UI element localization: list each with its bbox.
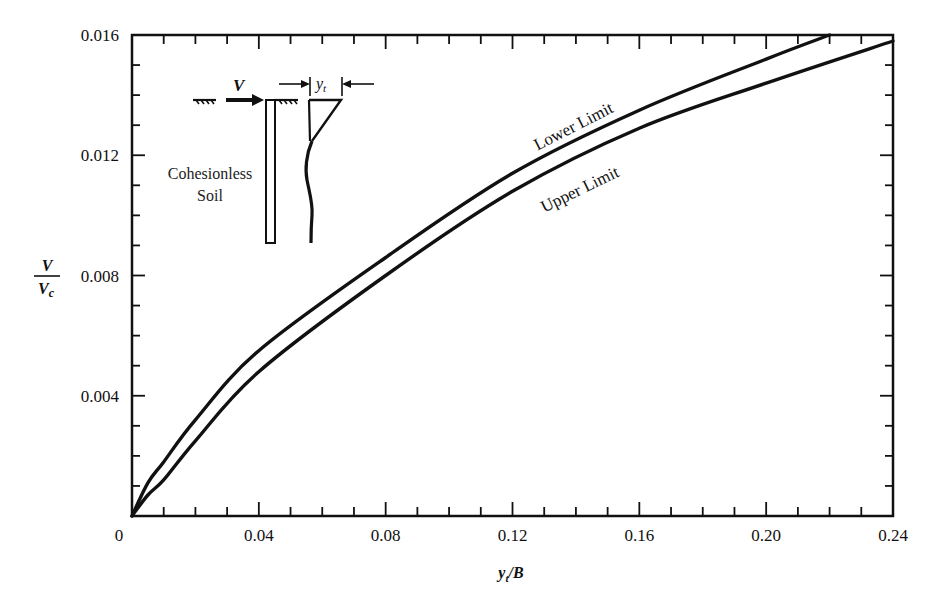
- x-tick-labels: 00.040.080.120.160.200.24: [115, 526, 909, 545]
- x-tick-label: 0.08: [371, 526, 401, 545]
- ground-hatch-left: [193, 100, 216, 104]
- load-arrow: [226, 94, 264, 106]
- y-tick-label: 0.016: [81, 26, 119, 45]
- chart: 00.040.080.120.160.200.24 0.0040.0080.01…: [0, 0, 937, 599]
- soil-label-line2: Soil: [197, 187, 223, 204]
- y-axis-title-numerator: V: [42, 257, 54, 274]
- y-axis-title: V Vc: [34, 257, 60, 300]
- deflection-label: yt: [314, 75, 327, 94]
- y-axis-title-den-sub: c: [49, 286, 55, 300]
- deflected-shape: [309, 100, 341, 141]
- y-tick-label: 0.008: [81, 267, 119, 286]
- deflection-label-sub: t: [323, 82, 327, 94]
- x-tick-label: 0.16: [624, 526, 654, 545]
- x-axis-title-rest: /B: [508, 564, 524, 581]
- x-tick-label: 0.04: [244, 526, 274, 545]
- load-label: V: [233, 76, 246, 95]
- x-tick-label: 0: [115, 526, 124, 545]
- x-tick-label: 0.20: [751, 526, 781, 545]
- deflected-shape-reference: [309, 100, 310, 141]
- y-tick-labels: 0.0040.0080.0120.016: [81, 26, 120, 406]
- upper-limit-curve: [132, 41, 893, 516]
- deflection-dimension: [279, 77, 374, 96]
- ground-hatch-right: [275, 100, 298, 104]
- pile: [266, 100, 275, 243]
- lower-limit-curve: [132, 35, 830, 516]
- axis-ticks: [132, 35, 893, 516]
- soil-label-line1: Cohesionless: [168, 165, 252, 182]
- curves: [132, 35, 893, 516]
- y-axis-title-denominator: Vc: [38, 280, 55, 300]
- x-axis-title: yt/B: [496, 564, 524, 584]
- deflected-shape-tail: [306, 141, 312, 243]
- y-tick-label: 0.012: [81, 146, 119, 165]
- x-tick-label: 0.12: [498, 526, 528, 545]
- y-tick-label: 0.004: [81, 387, 120, 406]
- pile-inset-diagram: V yt Cohesionless Soil: [168, 75, 374, 243]
- x-tick-label: 0.24: [878, 526, 908, 545]
- plot-frame: [132, 35, 893, 516]
